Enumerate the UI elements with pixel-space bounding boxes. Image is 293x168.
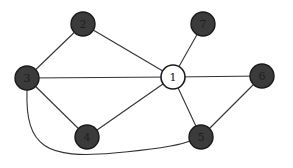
edge-1-6 (173, 76, 262, 77)
node-1: 1 (161, 65, 185, 89)
graph-diagram: 1234567 (0, 0, 293, 168)
edge-3-1 (27, 77, 173, 78)
nodes-layer: 1234567 (15, 12, 274, 149)
node-6-label: 6 (259, 70, 266, 83)
node-7: 7 (191, 12, 215, 36)
node-2: 2 (71, 12, 95, 36)
node-3: 3 (15, 66, 39, 90)
edge-2-1 (83, 24, 173, 77)
node-3-label: 3 (24, 72, 31, 85)
node-1-label: 1 (170, 71, 177, 84)
node-5: 5 (189, 125, 213, 149)
node-2-label: 2 (80, 18, 87, 31)
node-5-label: 5 (198, 131, 205, 144)
edge-4-1 (87, 77, 173, 137)
node-4: 4 (75, 125, 99, 149)
node-6: 6 (250, 64, 274, 88)
edges-layer (27, 24, 262, 154)
node-4-label: 4 (84, 131, 91, 144)
node-7-label: 7 (200, 18, 207, 31)
edge-5-6 (201, 76, 262, 137)
